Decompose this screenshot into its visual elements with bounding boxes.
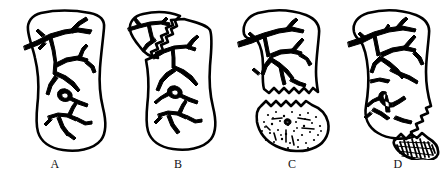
panel-b-drawing	[118, 0, 230, 160]
panel-b: B	[118, 0, 230, 184]
panel-label-a: A	[40, 158, 70, 170]
panel-a-drawing	[8, 0, 118, 160]
panel-label-b: B	[163, 158, 193, 170]
panel-c-drawing	[230, 0, 342, 160]
figure-illustration: A	[0, 0, 448, 184]
panel-d-drawing	[340, 0, 448, 160]
panel-label-d: D	[383, 158, 413, 170]
panel-label-c: C	[277, 158, 307, 170]
panel-d: D	[340, 0, 448, 184]
panel-a: A	[8, 0, 118, 184]
panel-c: C	[230, 0, 342, 184]
